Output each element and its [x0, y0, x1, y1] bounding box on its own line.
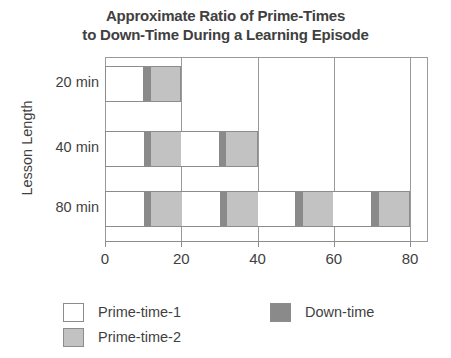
bar-segment-prime-time-1-9: [333, 192, 371, 226]
x-tick-label-20: 20: [161, 250, 201, 267]
legend-label: Down-time: [305, 304, 374, 320]
bar-segment-prime-time-1-0: [106, 67, 143, 101]
bar-40-min: [105, 131, 258, 167]
legend-item-prime-time-1[interactable]: Prime-time-1: [63, 300, 181, 324]
bar-segment-down-time-7: [295, 192, 303, 226]
bar-segment-prime-time-1-0: [106, 132, 144, 166]
bar-segment-prime-time-1-6: [258, 192, 296, 226]
legend-swatch-down-time: [270, 303, 291, 322]
bar-segment-prime-time-2-2: [151, 192, 181, 226]
bar-segment-prime-time-2-2: [151, 67, 181, 101]
y-tick-label-80-min: 80 min: [33, 199, 99, 215]
bar-segment-prime-time-2-11: [379, 192, 409, 226]
legend-label: Prime-time-2: [98, 329, 181, 345]
bar-segment-prime-time-1-0: [106, 192, 144, 226]
bar-segment-down-time-1: [144, 192, 152, 226]
x-tick-label-0: 0: [85, 250, 125, 267]
bar-segment-down-time-4: [219, 132, 227, 166]
bar-segment-prime-time-2-5: [227, 192, 257, 226]
chart-title-line-2: to Down-Time During a Learning Episode: [0, 25, 451, 44]
x-tick-60: [334, 241, 335, 247]
gridline-80: [410, 57, 411, 242]
bar-segment-down-time-4: [220, 192, 228, 226]
bar-segment-prime-time-2-5: [226, 132, 256, 166]
legend-label: Prime-time-1: [98, 304, 181, 320]
chart-title: Approximate Ratio of Prime-Times to Down…: [0, 6, 451, 44]
x-tick-0: [105, 241, 106, 247]
x-tick-80: [410, 241, 411, 247]
y-tick-label-20-min: 20 min: [33, 74, 99, 90]
x-tick-40: [258, 241, 259, 247]
x-tick-label-60: 60: [314, 250, 354, 267]
bar-segment-down-time-1: [144, 132, 152, 166]
x-tick-20: [181, 241, 182, 247]
x-tick-label-40: 40: [238, 250, 278, 267]
chart-title-line-1: Approximate Ratio of Prime-Times: [0, 6, 451, 25]
legend-swatch-prime-time-2: [63, 328, 84, 347]
bar-segment-prime-time-1-3: [182, 192, 220, 226]
legend-item-prime-time-2[interactable]: Prime-time-2: [63, 325, 181, 349]
legend-item-down-time[interactable]: Down-time: [270, 300, 374, 324]
bar-segment-down-time-1: [143, 67, 150, 101]
bar-segment-prime-time-1-3: [181, 132, 219, 166]
legend-swatch-prime-time-1: [63, 303, 84, 322]
y-tick-label-40-min: 40 min: [33, 139, 99, 155]
bar-segment-prime-time-2-2: [151, 132, 181, 166]
bar-20-min: [105, 66, 181, 102]
bar-segment-down-time-10: [371, 192, 379, 226]
x-tick-label-80: 80: [390, 250, 430, 267]
bar-segment-prime-time-2-8: [303, 192, 333, 226]
bar-80-min: [105, 191, 410, 227]
